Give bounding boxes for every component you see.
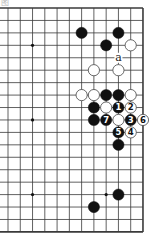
black-stone <box>88 114 99 125</box>
white-stone <box>125 89 136 100</box>
star-point <box>31 44 34 47</box>
black-stone <box>88 201 99 212</box>
star-point <box>105 193 108 196</box>
white-stone-4: 4 <box>125 127 136 138</box>
white-stone <box>113 114 124 125</box>
black-stone <box>76 27 87 38</box>
black-stone <box>113 139 124 150</box>
move-number: 7 <box>103 115 109 125</box>
black-stone <box>88 102 99 113</box>
move-number: 5 <box>115 127 121 137</box>
black-stone-1: 1 <box>113 102 124 113</box>
star-point <box>31 118 34 121</box>
move-number: 2 <box>128 102 134 112</box>
black-stone <box>113 189 124 200</box>
move-number: 1 <box>115 102 121 112</box>
white-stone <box>88 65 99 76</box>
move-number: 3 <box>128 115 134 125</box>
white-stone-2: 2 <box>125 102 136 113</box>
white-stone <box>113 65 124 76</box>
black-stone-7: 7 <box>101 114 112 125</box>
black-stone <box>113 89 124 100</box>
black-stone <box>113 27 124 38</box>
white-stone <box>76 89 87 100</box>
black-stone-3: 3 <box>125 114 136 125</box>
white-stone <box>125 40 136 51</box>
move-number: 6 <box>140 115 146 125</box>
black-stone <box>101 40 112 51</box>
go-board: 1273654 a <box>0 0 149 237</box>
star-point <box>31 193 34 196</box>
black-stone-5: 5 <box>113 127 124 138</box>
white-stone-6: 6 <box>137 114 148 125</box>
point-label-a: a <box>115 51 122 64</box>
white-stone <box>101 102 112 113</box>
white-stone <box>88 89 99 100</box>
board-marks: a <box>114 51 122 64</box>
move-number: 4 <box>128 127 134 137</box>
black-stone <box>101 89 112 100</box>
